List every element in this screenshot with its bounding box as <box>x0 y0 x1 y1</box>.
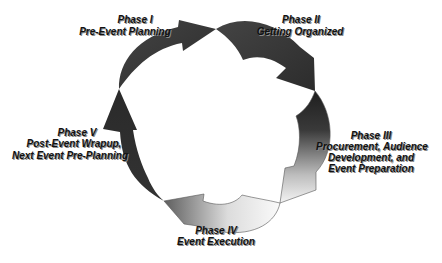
phase-2-line-1: Getting Organized <box>257 26 345 37</box>
phase-2-heading: Phase II <box>282 14 320 25</box>
phase-3-heading: Phase III <box>351 130 392 141</box>
phase-4-line-1: Event Execution <box>177 236 255 247</box>
phase-1-label: Phase I Phase I Pre-Event Planning Pre-E… <box>79 14 172 38</box>
phase-5-heading: Phase V <box>58 127 98 138</box>
phase-5-line-1: Post-Event Wrapup, <box>27 138 122 149</box>
phase-1-line-1: Pre-Event Planning <box>79 26 171 37</box>
phase-4-heading: Phase IV <box>195 225 238 236</box>
phase-5-label: Phase V Phase V Post-Event Wrapup, Post-… <box>12 127 129 162</box>
phase-3-line-2: Development, and <box>328 152 415 163</box>
phase-5-line-2: Next Event Pre-Planning <box>12 150 128 161</box>
phase-2-label: Phase II Phase II Getting Organized Gett… <box>257 14 346 38</box>
phase-3-line-1: Procurement, Audience <box>316 141 428 152</box>
phase-1-heading: Phase I <box>117 14 152 25</box>
phase-3-label: Phase III Phase III Procurement, Audienc… <box>316 130 429 175</box>
phase-3-line-3: Event Preparation <box>328 163 414 174</box>
phase-cycle-diagram: Phase I Phase I Pre-Event Planning Pre-E… <box>0 0 442 263</box>
